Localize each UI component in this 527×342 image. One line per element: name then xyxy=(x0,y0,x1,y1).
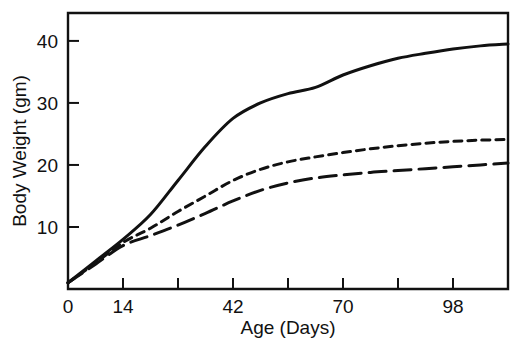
x-axis-title: Age (Days) xyxy=(240,317,335,338)
x-tick-label-70: 70 xyxy=(332,296,353,317)
chart-figure: 10203040 014427098 Age (Days) Body Weigh… xyxy=(0,0,527,342)
x-tick-label-42: 42 xyxy=(222,296,243,317)
y-tick-label-10: 10 xyxy=(37,217,58,238)
chart-background xyxy=(0,0,527,342)
x-tick-label-14: 14 xyxy=(112,296,134,317)
y-axis-title: Body Weight (gm) xyxy=(9,75,30,227)
y-tick-label-30: 30 xyxy=(37,93,58,114)
y-tick-label-20: 20 xyxy=(37,155,58,176)
x-tick-label-98: 98 xyxy=(442,296,463,317)
y-tick-label-40: 40 xyxy=(37,31,58,52)
line-chart: 10203040 014427098 Age (Days) Body Weigh… xyxy=(0,0,527,342)
x-tick-label-0: 0 xyxy=(63,296,74,317)
